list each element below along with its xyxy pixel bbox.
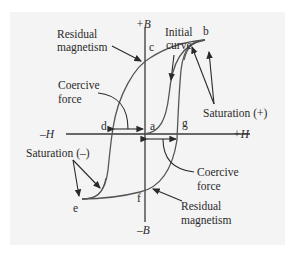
leader-saturation-pos-1 <box>192 47 214 104</box>
label-coercive-left-1: Coercive <box>58 79 100 91</box>
leader-residual-top <box>112 46 141 61</box>
leader-coercive-right <box>163 139 194 172</box>
label-coercive-left-2: force <box>58 93 82 105</box>
axis-label-neg-b: –B <box>136 224 150 236</box>
point-e: e <box>73 202 78 214</box>
leader-residual-bottom <box>153 189 182 201</box>
point-c: c <box>149 41 154 53</box>
axis-label-pos-h: +H <box>233 128 250 140</box>
label-initial-1: Initial <box>165 26 192 38</box>
axis-label-neg-h: –H <box>39 128 55 140</box>
label-saturation-pos: Saturation (+) <box>203 107 267 120</box>
label-residual-top-1: Residual <box>57 28 97 40</box>
label-residual-bottom-1: Residual <box>181 200 221 212</box>
point-d: d <box>101 120 107 132</box>
label-residual-bottom-2: magnetism <box>181 214 232 227</box>
point-f: f <box>137 192 141 204</box>
hysteresis-diagram: +B –B +H –H a b c d e f g Residual magne… <box>0 0 294 254</box>
point-b: b <box>203 25 209 37</box>
label-coercive-right-1: Coercive <box>197 166 239 178</box>
label-coercive-right-2: force <box>197 180 221 192</box>
point-a: a <box>150 120 155 132</box>
label-saturation-neg: Saturation (–) <box>26 147 90 160</box>
axis-label-pos-b: +B <box>136 18 151 30</box>
label-initial-2: curve <box>166 39 192 51</box>
point-g: g <box>182 117 188 130</box>
label-residual-top-2: magnetism <box>57 41 108 54</box>
